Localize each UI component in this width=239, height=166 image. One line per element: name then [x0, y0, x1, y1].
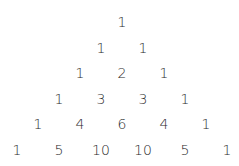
triangle-cell: 1	[97, 40, 106, 56]
triangle-cell: 3	[139, 91, 148, 107]
triangle-cell: 2	[118, 65, 127, 81]
triangle-cell: 1	[139, 40, 148, 56]
triangle-cell: 1	[202, 116, 211, 132]
triangle-cell: 10	[134, 142, 152, 158]
triangle-cell: 10	[92, 142, 110, 158]
triangle-cell: 4	[160, 116, 169, 132]
pascals-triangle: 11112113311464115101051	[0, 0, 239, 166]
triangle-cell: 1	[181, 91, 190, 107]
triangle-cell: 1	[34, 116, 43, 132]
triangle-cell: 3	[97, 91, 106, 107]
triangle-cell: 4	[76, 116, 85, 132]
triangle-cell: 5	[181, 142, 190, 158]
triangle-cell: 1	[76, 65, 85, 81]
triangle-cell: 1	[223, 142, 232, 158]
triangle-cell: 5	[55, 142, 64, 158]
triangle-cell: 1	[13, 142, 22, 158]
triangle-cell: 1	[118, 14, 127, 30]
triangle-cell: 1	[55, 91, 64, 107]
triangle-cell: 1	[160, 65, 169, 81]
triangle-cell: 6	[118, 116, 127, 132]
